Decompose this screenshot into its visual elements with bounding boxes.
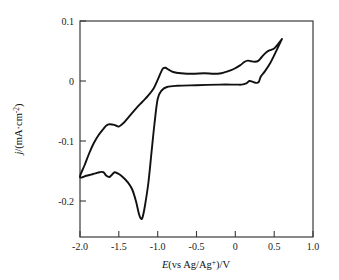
x-tick-label: 0.5 [268, 241, 281, 252]
y-tick-labels: 0.1 0 -0.1 -0.2 [58, 16, 74, 207]
y-axis-title-tail: ) [13, 103, 25, 107]
x-tick-label: 0 [233, 241, 238, 252]
x-tick-label: -1.0 [150, 241, 166, 252]
cv-curve-path [80, 39, 282, 219]
x-axis-title-rest: (vs Ag/Ag [168, 259, 212, 271]
y-tick-label: 0.1 [62, 16, 75, 27]
y-axis-title-rest: /(mA·cm [13, 113, 25, 152]
x-tick-label: -1.5 [111, 241, 127, 252]
plot-frame [80, 21, 313, 237]
chart-svg: -2.0 -1.5 -1.0 -0.5 0 0.5 1.0 0.1 0 -0.1… [0, 0, 339, 280]
x-tick-label: 1.0 [307, 241, 320, 252]
y-tick-label: -0.2 [58, 196, 74, 207]
y-axis-title: j/(mA·cm-2) [12, 103, 26, 157]
y-tick-label: -0.1 [58, 136, 74, 147]
x-tick-label: -0.5 [189, 241, 205, 252]
x-tick-label: -2.0 [72, 241, 88, 252]
x-axis-title: E(vs Ag/Ag+)/V [161, 258, 231, 272]
x-axis-title-tail: )/V [216, 259, 230, 271]
x-tick-marks [80, 231, 313, 237]
y-tick-label: 0 [69, 76, 74, 87]
cv-chart-figure: -2.0 -1.5 -1.0 -0.5 0 0.5 1.0 0.1 0 -0.1… [0, 0, 339, 280]
x-tick-labels: -2.0 -1.5 -1.0 -0.5 0 0.5 1.0 [72, 241, 319, 252]
